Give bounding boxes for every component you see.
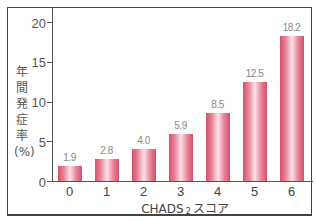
x-tick-label: 1 <box>92 184 122 199</box>
y-axis-title: 年間発症率(%) <box>14 64 30 160</box>
y-tick-mark <box>47 22 52 23</box>
bar-value-label: 1.9 <box>50 152 90 163</box>
y-tick-mark <box>47 62 52 63</box>
bar-score-0 <box>58 166 82 181</box>
x-tick-label: 5 <box>240 184 270 199</box>
bar-value-label: 4.0 <box>124 135 164 146</box>
y-tick-label: 10 <box>32 95 46 110</box>
x-tick-label: 0 <box>55 184 85 199</box>
y-tick-label: 15 <box>32 55 46 70</box>
x-tick-label: 6 <box>277 184 307 199</box>
x-axis-line <box>52 181 313 182</box>
x-tick-label: 2 <box>129 184 159 199</box>
x-axis-title: CHADS2スコア <box>130 199 240 216</box>
bar-score-3 <box>169 134 193 181</box>
bar-score-4 <box>206 113 230 181</box>
y-tick-mark <box>47 141 52 142</box>
y-tick-label: 20 <box>32 15 46 30</box>
bar-value-label: 12.5 <box>235 68 275 79</box>
y-tick-label: 5 <box>39 134 46 149</box>
y-tick-mark <box>47 181 52 182</box>
bar-score-2 <box>132 149 156 181</box>
x-tick-label: 4 <box>203 184 233 199</box>
bar-value-label: 2.8 <box>87 145 127 156</box>
bar-value-label: 5.9 <box>161 120 201 131</box>
bar-score-5 <box>243 82 267 181</box>
y-tick-mark <box>47 102 52 103</box>
bar-value-label: 8.5 <box>198 99 238 110</box>
x-tick-label: 3 <box>166 184 196 199</box>
y-tick-label: 0 <box>39 174 46 189</box>
bar-score-1 <box>95 159 119 181</box>
bar-score-6 <box>280 36 304 181</box>
bar-value-label: 18.2 <box>272 22 312 33</box>
